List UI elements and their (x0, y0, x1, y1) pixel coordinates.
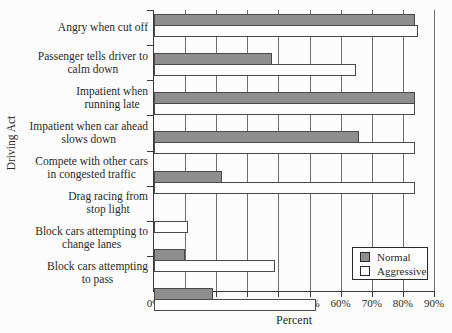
aggressive-bar-1 (154, 64, 356, 76)
category-label-text: Compete with other cars in congested tra… (35, 155, 148, 181)
y-tick-7 (147, 256, 154, 257)
category-label-text: Drag racing from stop light (68, 190, 148, 216)
legend-item-normal: Normal (360, 251, 427, 263)
gridline-90% (434, 10, 435, 291)
aggressive-bar-6 (154, 260, 275, 272)
category-label-text: Angry when cut off (58, 21, 148, 34)
bar-group-7 (154, 288, 434, 323)
y-tick-4 (147, 151, 154, 152)
category-labels-column: Angry when cut offPassenger tells driver… (0, 10, 148, 291)
category-label-text: Block cars attempting to change lanes (35, 225, 148, 251)
category-label-text: Passenger tells driver to calm down (38, 50, 148, 76)
aggressive-bar-5 (154, 221, 188, 233)
legend-label-normal: Normal (377, 251, 411, 263)
bar-group-5 (154, 210, 434, 245)
y-tick-6 (147, 221, 154, 222)
bar-group-1 (154, 53, 434, 88)
aggressive-bar-0 (154, 25, 418, 37)
category-label-text: Impatient when running late (76, 85, 148, 111)
y-tick-2 (147, 80, 154, 81)
legend: Normal Aggressive (352, 247, 428, 280)
legend-item-aggressive: Aggressive (360, 265, 427, 277)
bar-group-3 (154, 131, 434, 166)
aggressive-bar-3 (154, 142, 415, 154)
y-tick-3 (147, 115, 154, 116)
driving-act-bar-chart: Driving Act Angry when cut offPassenger … (0, 0, 452, 333)
y-tick-0 (147, 10, 154, 11)
y-tick-5 (147, 186, 154, 187)
category-label-2: Impatient when running late (0, 80, 148, 115)
category-label-0: Angry when cut off (0, 10, 148, 45)
category-label-3: Impatient when car ahead slows down (0, 115, 148, 150)
aggressive-bar-4 (154, 182, 415, 194)
category-label-5: Drag racing from stop light (0, 186, 148, 221)
aggressive-bar-2 (154, 103, 415, 115)
bar-group-4 (154, 171, 434, 206)
normal-swatch-icon (360, 252, 370, 262)
category-label-4: Compete with other cars in congested tra… (0, 151, 148, 186)
legend-label-aggressive: Aggressive (377, 265, 427, 277)
bar-group-0 (154, 14, 434, 49)
aggressive-swatch-icon (360, 266, 370, 276)
category-label-6: Block cars attempting to change lanes (0, 221, 148, 256)
category-label-text: Block cars attempting to pass (47, 260, 148, 286)
y-tick-1 (147, 45, 154, 46)
category-label-text: Impatient when car ahead slows down (30, 120, 148, 146)
category-label-7: Block cars attempting to pass (0, 256, 148, 291)
category-label-1: Passenger tells driver to calm down (0, 45, 148, 80)
bar-group-2 (154, 92, 434, 127)
aggressive-bar-7 (154, 299, 316, 311)
